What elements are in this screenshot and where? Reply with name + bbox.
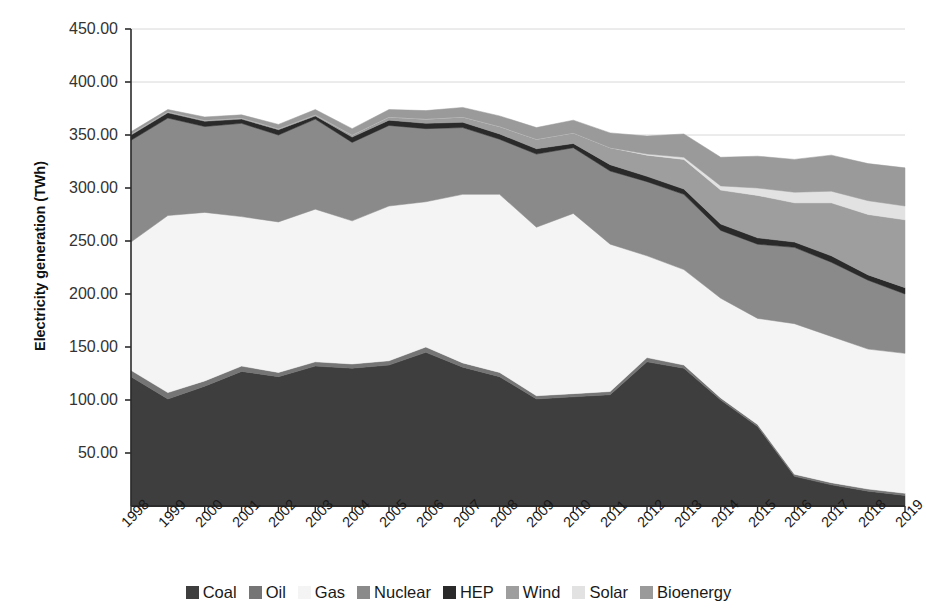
legend-label: HEP bbox=[460, 583, 494, 602]
legend-swatch-icon bbox=[443, 586, 456, 599]
legend-swatch-icon bbox=[186, 586, 199, 599]
legend-item-bioenergy[interactable]: Bioenergy bbox=[640, 583, 731, 602]
legend-swatch-icon bbox=[506, 586, 519, 599]
legend-swatch-icon bbox=[298, 586, 311, 599]
legend-label: Bioenergy bbox=[657, 583, 731, 602]
legend-label: Coal bbox=[203, 583, 237, 602]
chart-legend: CoalOilGasNuclearHEPWindSolarBioenergy bbox=[0, 583, 917, 602]
legend-label: Oil bbox=[266, 583, 286, 602]
legend-item-oil[interactable]: Oil bbox=[249, 583, 286, 602]
legend-item-nuclear[interactable]: Nuclear bbox=[357, 583, 431, 602]
legend-label: Nuclear bbox=[374, 583, 431, 602]
legend-label: Wind bbox=[523, 583, 561, 602]
legend-item-gas[interactable]: Gas bbox=[298, 583, 345, 602]
legend-label: Gas bbox=[315, 583, 345, 602]
legend-item-solar[interactable]: Solar bbox=[572, 583, 628, 602]
legend-item-hep[interactable]: HEP bbox=[443, 583, 494, 602]
legend-swatch-icon bbox=[640, 586, 653, 599]
legend-label: Solar bbox=[589, 583, 628, 602]
legend-swatch-icon bbox=[249, 586, 262, 599]
legend-item-wind[interactable]: Wind bbox=[506, 583, 561, 602]
legend-item-coal[interactable]: Coal bbox=[186, 583, 237, 602]
legend-swatch-icon bbox=[357, 586, 370, 599]
legend-swatch-icon bbox=[572, 586, 585, 599]
